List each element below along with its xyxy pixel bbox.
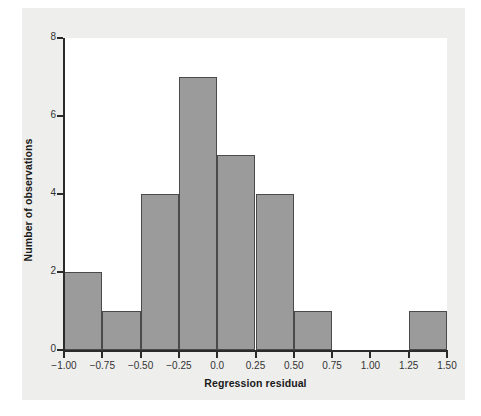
x-axis-tick bbox=[369, 352, 371, 358]
x-axis-tick bbox=[293, 352, 295, 358]
x-axis-tick-label: 1.50 bbox=[424, 360, 470, 371]
y-axis-title: Number of observations bbox=[22, 110, 34, 290]
histogram-bar bbox=[179, 77, 217, 350]
histogram-bar bbox=[102, 311, 140, 350]
x-axis-tick bbox=[178, 352, 180, 358]
x-axis-tick bbox=[63, 352, 65, 358]
histogram-bar bbox=[141, 194, 179, 350]
y-axis-line bbox=[63, 38, 65, 351]
histogram-bar bbox=[217, 155, 255, 350]
y-axis-tick bbox=[57, 271, 63, 273]
x-axis-tick bbox=[408, 352, 410, 358]
x-axis-tick bbox=[101, 352, 103, 358]
y-axis-tick-label: 2 bbox=[32, 265, 56, 276]
x-axis-tick bbox=[331, 352, 333, 358]
x-axis-tick bbox=[255, 352, 257, 358]
y-axis-tick bbox=[57, 349, 63, 351]
x-axis-tick bbox=[446, 352, 448, 358]
y-axis-tick-label: 8 bbox=[32, 31, 56, 42]
histogram-bar bbox=[256, 194, 294, 350]
histogram-bar bbox=[64, 272, 102, 350]
histogram-figure: 02468 −1.00−0.75−0.50−0.250.00.250.500.7… bbox=[0, 0, 481, 416]
histogram-bar bbox=[294, 311, 332, 350]
y-axis-tick bbox=[57, 37, 63, 39]
y-axis-tick bbox=[57, 193, 63, 195]
y-axis-tick-label: 6 bbox=[32, 109, 56, 120]
histogram-bar bbox=[409, 311, 447, 350]
x-axis-title: Regression residual bbox=[64, 377, 447, 389]
x-axis-tick bbox=[216, 352, 218, 358]
y-axis-tick-label: 4 bbox=[32, 187, 56, 198]
x-axis-tick bbox=[140, 352, 142, 358]
y-axis-tick-label: 0 bbox=[32, 343, 56, 354]
y-axis-tick bbox=[57, 115, 63, 117]
